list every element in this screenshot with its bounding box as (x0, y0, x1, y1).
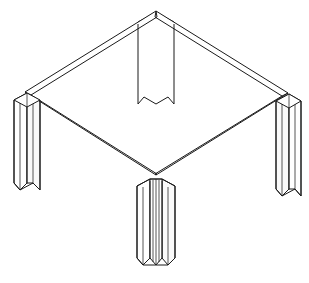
leg-front (137, 179, 175, 265)
leg-left-flange-outer (14, 93, 27, 190)
leg-right-flange-inner (276, 94, 289, 196)
leg-right (276, 94, 301, 196)
rail-joint-front-b (155, 174, 156, 175)
leg-front-left-face (137, 179, 150, 265)
drawing-canvas: Isometric line drawing of a four-leg tab… (0, 0, 309, 283)
leg-left-flange-inner (27, 93, 40, 190)
leg-front-right-face (162, 179, 175, 265)
table-frame-isometric-drawing (0, 0, 309, 283)
